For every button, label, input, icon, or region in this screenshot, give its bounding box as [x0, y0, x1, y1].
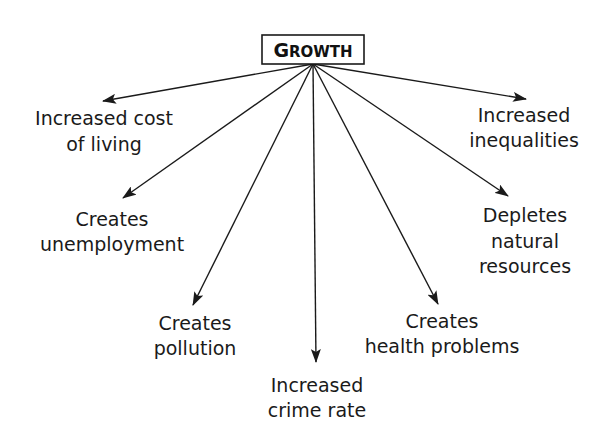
branch-label-line: Increased cost: [35, 107, 173, 129]
branch-label-cost: Increased costof living: [35, 107, 173, 155]
branch-label-line: unemployment: [40, 233, 184, 255]
arrow-unemployment: [123, 64, 313, 198]
branch-label-pollution: Createspollution: [154, 312, 237, 359]
label-group: Increased costof livingCreatesunemployme…: [35, 104, 579, 421]
arrow-health: [313, 64, 438, 304]
growth-diagram: Increased costof livingCreatesunemployme…: [0, 0, 610, 439]
branch-label-resources: Depletesnaturalresources: [479, 204, 571, 277]
branch-label-line: Increased: [478, 104, 570, 126]
branch-label-health: Createshealth problems: [365, 310, 520, 357]
branch-label-line: Creates: [75, 208, 148, 230]
arrow-cost: [103, 64, 313, 101]
branch-label-line: pollution: [154, 337, 237, 359]
branch-label-crime: Increasedcrime rate: [268, 374, 366, 421]
branch-label-line: Creates: [405, 310, 478, 332]
branch-label-line: inequalities: [469, 129, 579, 151]
root-label-rest: ROWTH: [289, 43, 353, 61]
branch-label-line: health problems: [365, 335, 520, 357]
branch-label-line: of living: [66, 133, 142, 155]
branch-label-line: crime rate: [268, 399, 366, 421]
branch-label-line: Creates: [158, 312, 231, 334]
root-label-initial: G: [273, 39, 289, 61]
branch-label-line: Depletes: [483, 204, 567, 226]
branch-label-line: resources: [479, 255, 571, 277]
root-node: GROWTH: [262, 35, 364, 64]
branch-label-unemployment: Createsunemployment: [40, 208, 184, 255]
arrow-inequalities: [313, 64, 526, 99]
branch-label-line: natural: [491, 230, 559, 252]
arrow-pollution: [193, 64, 313, 305]
branch-label-inequalities: Increasedinequalities: [469, 104, 579, 151]
branch-label-line: Increased: [271, 374, 363, 396]
arrow-crime: [313, 64, 316, 362]
root-label: GROWTH: [273, 39, 352, 61]
